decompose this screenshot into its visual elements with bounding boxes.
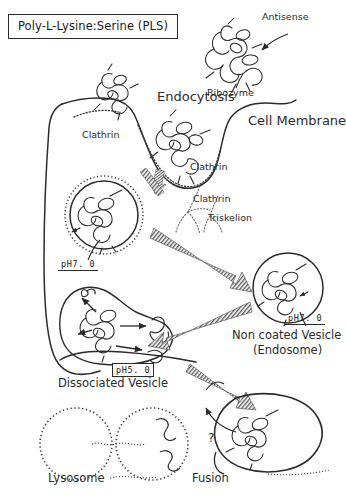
- label-clathrin-1: Clathrin: [82, 130, 119, 140]
- label-cell-membrane: Cell Membrane: [248, 114, 346, 128]
- transport-arrows: [147, 168, 256, 410]
- label-clathrin-2: Clathrin: [190, 162, 227, 172]
- label-dissociated-vesicle: Dissociated Vesicle: [58, 377, 168, 389]
- label-antisense: Antisense: [262, 12, 309, 22]
- pls-complex-extracellular: [206, 18, 263, 92]
- ph-tag-dissociated-vesicle: pH5. 0: [112, 363, 154, 377]
- fusion-vesicle: [206, 382, 330, 475]
- coated-vesicle: [65, 176, 143, 260]
- figure-title: Poly-L-Lysine:Serine (PLS): [18, 19, 168, 33]
- ribozyme-leader-line: [236, 74, 243, 88]
- label-triskelion: Triskelion: [208, 213, 252, 223]
- dissociated-vesicle-complex: [80, 308, 117, 362]
- release-arrows: [78, 298, 146, 350]
- label-lysosome: Lysosome: [48, 472, 105, 484]
- ph-tag-non-coated-vesicle: pH7. 0: [285, 312, 325, 325]
- lysosome-left: [40, 408, 116, 480]
- label-non-coated-vesicle: Non coated Vesicle: [232, 329, 341, 341]
- label-endocytosis: Endocytosis: [157, 90, 235, 104]
- label-endosome: (Endosome): [253, 344, 322, 356]
- label-clathrin-3: Clathrin: [193, 194, 230, 204]
- antisense-arrow: [262, 34, 288, 50]
- label-question-mark: ?: [208, 432, 214, 445]
- ph-tag-coated-vesicle: pH7. 0: [58, 258, 98, 271]
- lysosome-right: [110, 408, 188, 480]
- figure-title-box: Poly-L-Lysine:Serine (PLS): [8, 14, 178, 39]
- label-fusion: Fusion: [192, 472, 229, 484]
